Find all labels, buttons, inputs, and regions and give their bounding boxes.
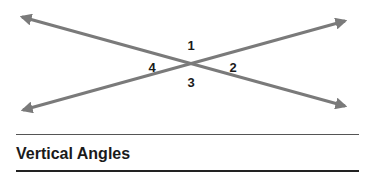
angle-label-1: 1 bbox=[187, 39, 194, 52]
vertical-angles-diagram bbox=[0, 0, 376, 125]
angle-label-2: 2 bbox=[229, 61, 236, 74]
caption-title: Vertical Angles bbox=[16, 145, 130, 163]
caption-bottom-rule bbox=[16, 170, 359, 172]
angle-label-4: 4 bbox=[148, 61, 155, 74]
line-a-arrow-both-ends bbox=[22, 17, 345, 106]
caption-top-rule bbox=[16, 134, 359, 135]
angle-label-3: 3 bbox=[187, 76, 194, 89]
line-b-arrow-both-ends bbox=[23, 21, 345, 110]
